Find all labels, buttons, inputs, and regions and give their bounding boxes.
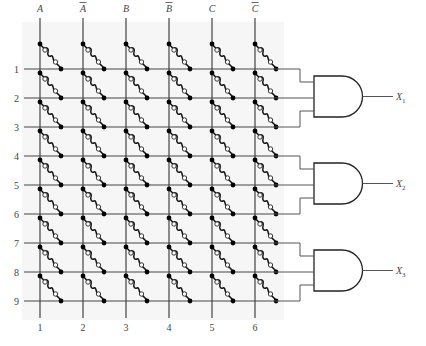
junction-dot	[38, 129, 43, 134]
output-label: X3	[395, 265, 406, 279]
fuse-ring	[258, 164, 262, 168]
junction-dot	[81, 100, 86, 105]
junction-dot	[102, 270, 107, 275]
fuse-ring	[215, 251, 219, 255]
fuse-ring	[86, 77, 90, 81]
junction-dot	[145, 241, 150, 246]
junction-dot	[188, 299, 193, 304]
junction-dot	[231, 241, 236, 246]
fuse-ring	[225, 118, 229, 122]
junction-dot	[210, 187, 215, 192]
junction-dot	[59, 241, 64, 246]
junction-dot	[167, 274, 172, 279]
fuse-ring	[139, 205, 143, 209]
row-label: 3	[14, 122, 19, 133]
junction-dot	[38, 216, 43, 221]
junction-dot	[38, 100, 43, 105]
junction-dot	[167, 158, 172, 163]
junction-dot	[188, 270, 193, 275]
junction-dot	[145, 125, 150, 130]
fuse-ring	[53, 147, 57, 151]
junction-dot	[59, 183, 64, 188]
fuse-ring	[258, 48, 262, 52]
fuse-ring	[139, 292, 143, 296]
fuse-ring	[53, 176, 57, 180]
output-subscript: 3	[402, 271, 406, 279]
fuse-ring	[215, 193, 219, 197]
junction-dot	[253, 100, 258, 105]
junction-dot	[167, 129, 172, 134]
fuse-ring	[129, 251, 133, 255]
junction-dot	[231, 212, 236, 217]
junction-dot	[253, 42, 258, 47]
fuse-ring	[268, 205, 272, 209]
and-gate	[272, 69, 393, 127]
fuse-ring	[268, 118, 272, 122]
junction-dot	[167, 42, 172, 47]
junction-dot	[124, 245, 129, 250]
fuse-ring	[43, 222, 47, 226]
and-gates	[272, 69, 393, 301]
fuse-ring	[43, 280, 47, 284]
junction-dot	[253, 216, 258, 221]
output-label: X1	[395, 91, 406, 105]
junction-dot	[231, 154, 236, 159]
fuse-ring	[225, 60, 229, 64]
row-label: 2	[14, 93, 19, 104]
junction-dot	[145, 212, 150, 217]
junction-dot	[59, 212, 64, 217]
fuse-ring	[96, 234, 100, 238]
row-label: 1	[14, 64, 19, 75]
row-label: 7	[14, 238, 19, 249]
column-label: C	[209, 3, 216, 14]
row-label: 4	[14, 151, 19, 162]
fuse-ring	[268, 89, 272, 93]
fuse-ring	[43, 135, 47, 139]
fuse-ring	[215, 222, 219, 226]
junction-dot	[81, 71, 86, 76]
fuse-ring	[86, 135, 90, 139]
junction-dot	[81, 187, 86, 192]
fuse-ring	[258, 222, 262, 226]
row-label: 9	[14, 296, 19, 307]
junction-dot	[188, 125, 193, 130]
and-gate-body	[314, 250, 363, 291]
fuse-ring	[172, 164, 176, 168]
fuse-ring	[53, 205, 57, 209]
fuse-ring	[139, 118, 143, 122]
fuse-ring	[225, 292, 229, 296]
fuse-ring	[96, 263, 100, 267]
fuse-ring	[172, 135, 176, 139]
fuse-ring	[172, 222, 176, 226]
fuse-ring	[139, 263, 143, 267]
fuse-ring	[96, 60, 100, 64]
fuse-ring	[43, 164, 47, 168]
junction-dot	[102, 125, 107, 130]
junction-dot	[210, 158, 215, 163]
junction-dot	[38, 245, 43, 250]
junction-dot	[253, 274, 258, 279]
junction-dot	[102, 299, 107, 304]
fuse-ring	[172, 77, 176, 81]
junction-dot	[81, 42, 86, 47]
fuse-ring	[129, 77, 133, 81]
junction-dot	[253, 129, 258, 134]
column-label: A	[79, 3, 87, 14]
fuse-ring	[139, 234, 143, 238]
fuse-ring	[86, 222, 90, 226]
junction-dot	[124, 100, 129, 105]
and-gate	[272, 156, 393, 214]
junction-dot	[59, 125, 64, 130]
fuse-ring	[139, 176, 143, 180]
fuse-ring	[182, 89, 186, 93]
fuse-ring	[182, 118, 186, 122]
junction-dot	[231, 125, 236, 130]
column-number: 4	[167, 322, 172, 333]
fuse-ring	[139, 89, 143, 93]
fuse-ring	[86, 251, 90, 255]
fuse-ring	[215, 77, 219, 81]
fuse-ring	[43, 251, 47, 255]
junction-dot	[145, 270, 150, 275]
column-number: 3	[124, 322, 129, 333]
fuse-ring	[43, 193, 47, 197]
